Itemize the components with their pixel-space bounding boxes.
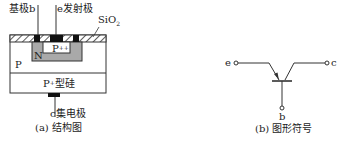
collector-terminal-circle [325,61,329,65]
symbol-caption: (b) 图形符号 [255,123,312,134]
p-plusplus-text: P [52,43,59,54]
substrate-label-text: 型硅 [55,78,75,89]
symbol-collector-label: c [331,57,337,68]
substrate-label-p: P [43,78,50,89]
base-contact-right [73,35,79,42]
symbol-base-label: b [279,111,285,122]
p-region-label: P [15,59,22,70]
base-label: 基极b [9,3,35,14]
collector-contact [48,93,60,97]
collector-diagonal [285,63,294,80]
emitter-contact [50,35,63,42]
symbol-emitter-label: e [225,57,231,68]
substrate-label-superscript: + [50,79,55,86]
emitter-terminal-circle [234,61,238,65]
structure-diagram [10,5,106,117]
base-contact-left [34,35,40,42]
p-plusplus-superscript: ++ [59,44,69,51]
structure-caption: (a) 结构图 [35,122,82,133]
substrate-label: P+型硅 [43,78,75,89]
p-plusplus-label: P++ [52,43,69,54]
oxide-label-text: SiO [98,14,116,25]
oxide-label-subscript: 2 [116,20,120,27]
pnp-symbol [234,61,329,110]
collector-label: c集电极 [50,108,86,119]
base-terminal-circle [280,106,284,110]
n-region-label: N [34,50,43,61]
emitter-label: e发射极 [57,3,93,14]
oxide-label: SiO2 [98,14,120,29]
